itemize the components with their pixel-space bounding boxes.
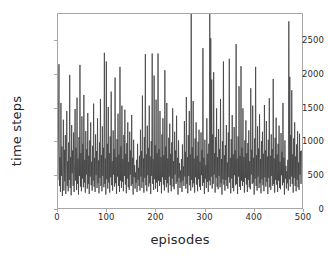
- x-axis-tick-mark: [155, 209, 156, 212]
- x-axis-tick-mark: [205, 209, 206, 212]
- x-axis-tick-label: 400: [246, 212, 263, 222]
- y-axis-tick-label: 1000: [302, 136, 324, 146]
- x-axis-tick-mark: [254, 209, 255, 212]
- plot-area: [57, 13, 303, 209]
- x-axis-label: episodes: [57, 232, 303, 247]
- data-line-chart: [58, 14, 302, 208]
- y-axis-label: time steps: [9, 76, 24, 186]
- y-axis-tick-mark: [54, 175, 57, 176]
- figure: 05001000150020002500 0100200300400500 ti…: [0, 0, 328, 262]
- y-axis-tick-label: 0: [318, 204, 324, 214]
- y-axis-tick-label: 1500: [302, 103, 324, 113]
- y-axis-tick-label: 500: [307, 170, 324, 180]
- y-axis-tick-mark: [54, 141, 57, 142]
- y-axis-tick-label: 2500: [302, 35, 324, 45]
- x-axis-tick-label: 100: [98, 212, 115, 222]
- y-axis-tick-label: 2000: [302, 69, 324, 79]
- x-axis-tick-label: 0: [54, 212, 60, 222]
- y-axis-tick-mark: [54, 40, 57, 41]
- x-axis-tick-label: 300: [196, 212, 213, 222]
- x-axis-tick-mark: [303, 209, 304, 212]
- x-axis-tick-label: 200: [147, 212, 164, 222]
- y-axis-tick-mark: [54, 108, 57, 109]
- x-axis-tick-mark: [106, 209, 107, 212]
- x-axis-tick-mark: [57, 209, 58, 212]
- x-axis-tick-label: 500: [295, 212, 312, 222]
- y-axis-tick-mark: [54, 74, 57, 75]
- data-series-line: [58, 14, 302, 196]
